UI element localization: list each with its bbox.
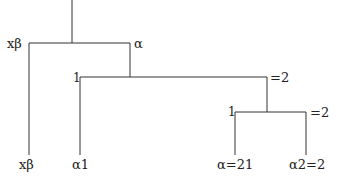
leaf-label: α1 — [72, 158, 89, 171]
tree-edges — [0, 0, 341, 182]
node-label-low-left: 1 — [228, 106, 236, 118]
tree-diagram: xβ α 1 =2 1 =2 xβ α1 α=21 α2=2 — [0, 0, 341, 182]
leaf-label: α=21 — [217, 158, 253, 171]
leaf-label: xβ — [19, 158, 34, 171]
node-label-mid-left: 1 — [73, 72, 81, 84]
node-label-mid-right: =2 — [270, 71, 289, 84]
node-label-low-right: =2 — [310, 106, 329, 119]
node-label-root-right: α — [134, 37, 143, 50]
node-label-root-left: xβ — [7, 37, 22, 50]
leaf-label: α2=2 — [289, 158, 325, 171]
